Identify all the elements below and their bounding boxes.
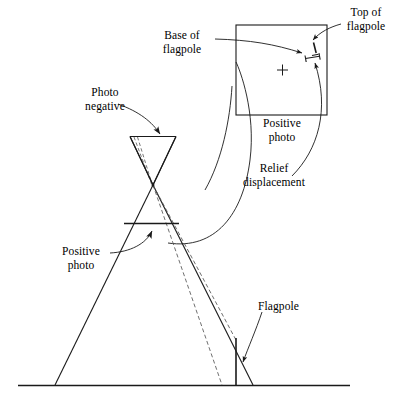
flagpole-image-mark: [312, 43, 319, 56]
principal-point-cross: [277, 65, 288, 76]
leader-base-of-flagpole: [215, 39, 302, 53]
figure-canvas: Photo negative Positive photo Base of fl…: [0, 0, 401, 407]
leader-flagpole: [243, 312, 262, 362]
leader-positive-photo-projection: [168, 62, 251, 244]
label-top-of-flagpole: Top of flagpole: [334, 6, 398, 33]
label-flagpole: Flagpole: [258, 300, 328, 314]
label-photo-negative: Photo negative: [70, 86, 140, 113]
label-relief-displacement: Relief displacement: [228, 162, 320, 189]
label-positive-photo-left: Positive photo: [46, 245, 116, 272]
leader-positive-photo-left: [110, 231, 152, 253]
label-positive-photo-box: Positive photo: [247, 117, 317, 144]
exposure-station: [152, 184, 155, 187]
diagram-svg: [0, 0, 401, 407]
label-base-of-flagpole: Base of flagpole: [148, 29, 216, 56]
photo-negative-plane: [130, 137, 176, 186]
positive-photo-inset: [236, 25, 327, 115]
